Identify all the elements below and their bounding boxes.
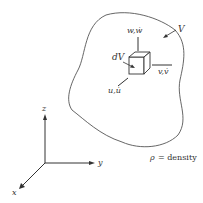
coordinate-axes	[19, 114, 95, 189]
u-velocity-line	[118, 78, 128, 86]
control-volume-diagram: w,ẇ v,v̇ u,u̇ dV V z y x ρ = density	[0, 0, 203, 203]
v-velocity-label: v,v̇	[158, 68, 169, 76]
volume-label: V	[178, 25, 185, 34]
density-symbol: ρ	[150, 154, 155, 162]
w-velocity-label: w,ẇ	[127, 27, 142, 35]
z-axis-label: z	[42, 105, 46, 113]
v-arrowhead-icon	[163, 34, 168, 38]
element-label: dV	[112, 53, 124, 62]
y-axis-label: y	[98, 159, 103, 167]
v-pointer-arrow	[166, 30, 176, 36]
x-axis-label: x	[12, 189, 17, 197]
u-velocity-label: u,u̇	[108, 87, 121, 95]
differential-element-cube	[129, 52, 150, 74]
y-arrowhead-icon	[89, 161, 95, 165]
z-arrowhead-icon	[43, 114, 47, 120]
density-legend-text: = density	[158, 154, 197, 162]
diagram-canvas	[0, 0, 203, 203]
